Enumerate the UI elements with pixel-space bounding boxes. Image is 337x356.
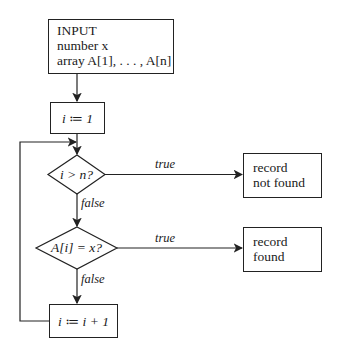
init-label: i ≔ 1: [62, 110, 93, 127]
not-found-line1: record: [253, 160, 305, 175]
found-box: record found: [243, 227, 322, 272]
decision-match-label: A[i] = x?: [51, 240, 102, 256]
edge-label-bound-true: true: [155, 157, 175, 172]
decision-bound: i > n?: [48, 155, 105, 194]
increment-label: i ≔ i + 1: [58, 313, 109, 330]
edge-label-bound-false: false: [81, 196, 105, 211]
input-box: INPUT number x array A[1], . . . , A[n]: [48, 19, 174, 74]
input-array: array A[1], . . . , A[n]: [57, 53, 171, 68]
edge-label-match-false: false: [81, 272, 105, 287]
not-found-line2: not found: [253, 175, 305, 190]
input-title: INPUT: [57, 23, 171, 38]
found-line2: found: [253, 249, 287, 264]
found-line1: record: [253, 234, 287, 249]
edge-label-match-true: true: [155, 231, 175, 246]
init-box: i ≔ 1: [50, 102, 105, 134]
decision-match: A[i] = x?: [36, 227, 117, 269]
decision-bound-label: i > n?: [60, 167, 93, 183]
not-found-box: record not found: [243, 153, 322, 198]
increment-box: i ≔ i + 1: [49, 304, 118, 338]
input-number: number x: [57, 38, 171, 53]
